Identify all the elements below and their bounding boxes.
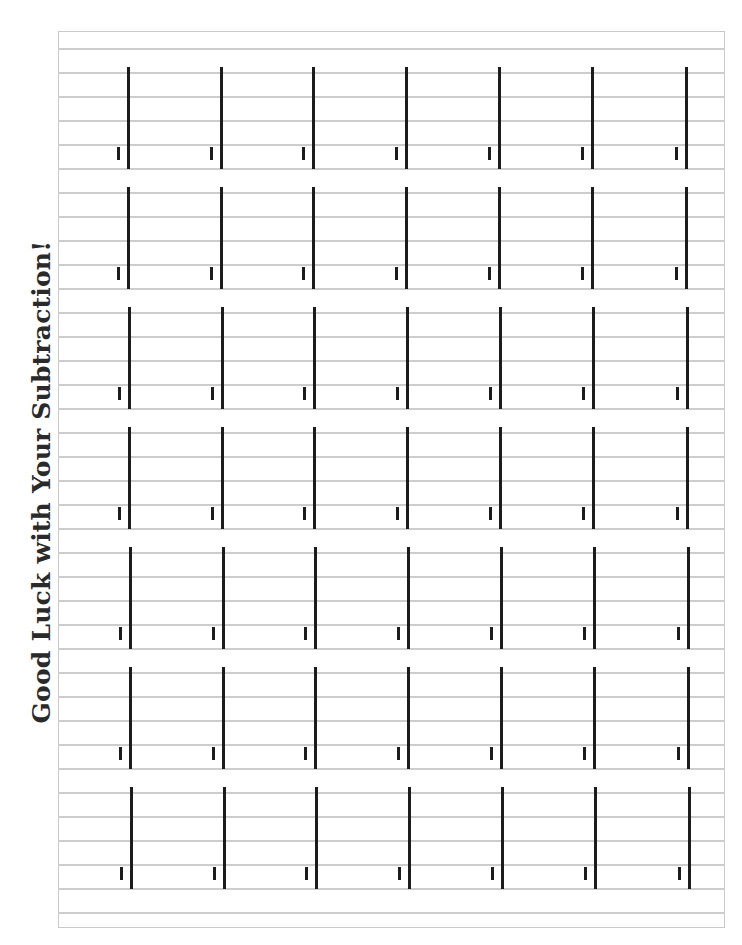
divider-bar [313,307,316,409]
divider-bar [406,427,409,529]
divider-bar [499,427,502,529]
ruled-line [58,336,725,338]
divider-bar [222,667,225,769]
ruled-line [58,648,725,650]
divider-bar [128,427,131,529]
minus-marker [675,267,678,280]
minus-marker [210,267,213,280]
ruled-line [58,840,725,842]
minus-marker [488,147,491,160]
divider-bar [688,787,691,889]
ruled-line [58,456,725,458]
minus-marker [490,747,493,760]
minus-marker [398,867,401,880]
divider-bar [498,67,501,169]
minus-marker [395,147,398,160]
divider-bar [501,787,504,889]
worksheet-title: Good Luck with Your Subtraction! [27,241,56,724]
divider-bar [127,67,130,169]
ruled-line [58,408,725,410]
ruled-line [58,552,725,554]
divider-bar [685,67,688,169]
ruled-line [58,216,725,218]
divider-bar [500,667,503,769]
ruled-line [58,888,725,890]
minus-marker [395,267,398,280]
divider-bar [592,307,595,409]
minus-marker [677,627,680,640]
divider-bar [591,187,594,289]
ruled-line [58,96,725,98]
minus-marker [581,147,584,160]
ruled-line [58,504,725,506]
minus-marker [678,867,681,880]
ruled-line [58,696,725,698]
minus-marker [118,507,121,520]
minus-marker [304,627,307,640]
minus-marker [303,507,306,520]
minus-marker [211,507,214,520]
ruled-line [58,672,725,674]
divider-bar [223,787,226,889]
minus-marker [120,867,123,880]
ruled-line [58,288,725,290]
ruled-line [58,48,725,50]
divider-bar [405,67,408,169]
minus-marker [676,507,679,520]
minus-marker [677,747,680,760]
divider-bar [314,547,317,649]
divider-bar [405,187,408,289]
minus-marker [118,387,121,400]
minus-marker [304,747,307,760]
minus-marker [489,507,492,520]
ruled-line [58,528,725,530]
ruled-line [58,480,725,482]
minus-marker [213,867,216,880]
ruled-line [58,432,725,434]
divider-bar [594,787,597,889]
divider-bar [407,547,410,649]
ruled-line [58,816,725,818]
worksheet-page: Good Luck with Your Subtraction! [0,0,742,945]
divider-bar [129,547,132,649]
divider-bar [498,187,501,289]
divider-bar [687,667,690,769]
ruled-line [58,120,725,122]
divider-bar [221,427,224,529]
minus-marker [582,387,585,400]
minus-marker [302,267,305,280]
divider-bar [313,427,316,529]
minus-marker [212,627,215,640]
minus-marker [581,267,584,280]
ruled-line [58,864,725,866]
minus-marker [675,147,678,160]
ruled-line [58,912,725,914]
divider-bar [500,547,503,649]
minus-marker [305,867,308,880]
divider-bar [406,307,409,409]
divider-bar [222,547,225,649]
divider-bar [221,307,224,409]
divider-bar [687,547,690,649]
divider-bar [129,667,132,769]
divider-bar [591,67,594,169]
ruled-line [58,192,725,194]
divider-bar [499,307,502,409]
divider-bar [127,187,130,289]
divider-bar [593,547,596,649]
divider-bar [408,787,411,889]
ruled-line [58,240,725,242]
ruled-line [58,624,725,626]
ruled-line [58,720,725,722]
divider-bar [686,427,689,529]
divider-bar [593,667,596,769]
divider-bar [407,667,410,769]
minus-marker [584,867,587,880]
divider-bar [314,667,317,769]
ruled-line [58,744,725,746]
divider-bar [128,307,131,409]
divider-bar [592,427,595,529]
minus-marker [119,747,122,760]
ruled-line [58,360,725,362]
ruled-line [58,384,725,386]
